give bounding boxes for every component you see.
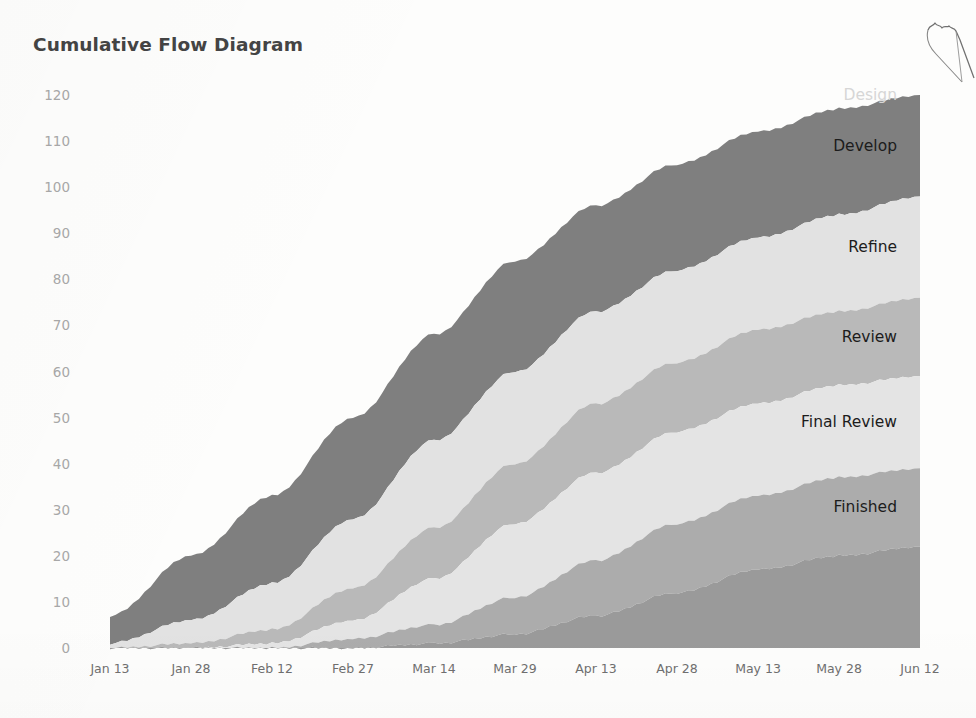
y-tick-label: 50 [8,410,70,426]
y-tick-label: 110 [8,133,70,149]
band-label-final-review: Final Review [801,413,897,431]
band-label-refine: Refine [848,238,897,256]
y-tick-label: 20 [8,548,70,564]
x-tick-label: Apr 13 [575,661,617,676]
y-tick-label: 40 [8,456,70,472]
y-tick-label: 60 [8,364,70,380]
x-tick-label: Mar 14 [412,661,455,676]
x-tick-label: Jun 12 [900,661,939,676]
x-tick-label: Feb 27 [332,661,374,676]
y-tick-label: 10 [8,594,70,610]
band-label-finished: Finished [834,498,898,516]
x-tick-label: Feb 12 [251,661,293,676]
x-tick-label: Jan 28 [171,661,210,676]
y-tick-label: 100 [8,179,70,195]
stacked-area-chart [0,0,976,718]
y-tick-label: 30 [8,502,70,518]
x-tick-label: Mar 29 [493,661,536,676]
y-tick-label: 70 [8,317,70,333]
y-tick-label: 0 [8,640,70,656]
x-tick-label: Apr 28 [656,661,698,676]
band-label-design: Design [843,86,897,104]
x-tick-label: May 28 [816,661,862,676]
band-label-develop: Develop [833,137,897,155]
cumulative-flow-diagram-page: Cumulative Flow Diagram 1201101009080706… [0,0,976,718]
band-label-review: Review [842,328,897,346]
y-tick-label: 90 [8,225,70,241]
y-tick-label: 120 [8,87,70,103]
x-tick-label: May 13 [735,661,781,676]
y-tick-label: 80 [8,271,70,287]
x-tick-label: Jan 13 [90,661,129,676]
